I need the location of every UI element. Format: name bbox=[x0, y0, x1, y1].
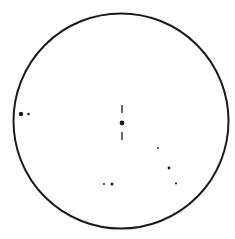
star-2 bbox=[27, 113, 30, 116]
target-star-marker bbox=[120, 105, 125, 140]
star-1 bbox=[19, 112, 23, 116]
target-star bbox=[120, 121, 125, 126]
star-field-diagram bbox=[0, 0, 235, 239]
star-6 bbox=[103, 183, 105, 185]
star-5 bbox=[175, 182, 177, 184]
field-stars bbox=[19, 112, 177, 186]
star-7 bbox=[111, 183, 114, 186]
star-3 bbox=[157, 147, 159, 149]
star-4 bbox=[168, 167, 171, 170]
